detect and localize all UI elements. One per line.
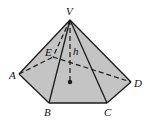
vertex-label-v: V: [66, 5, 74, 17]
base-center-dot: [68, 80, 72, 84]
pyramid-diagram: V E A B C D h: [0, 0, 150, 121]
vertex-label-c: C: [104, 106, 112, 118]
height-label: h: [73, 45, 79, 57]
vertex-label-b: B: [44, 106, 51, 118]
vertex-label-d: D: [133, 77, 142, 89]
vertex-label-e: E: [44, 46, 52, 58]
vertex-label-a: A: [8, 69, 16, 81]
